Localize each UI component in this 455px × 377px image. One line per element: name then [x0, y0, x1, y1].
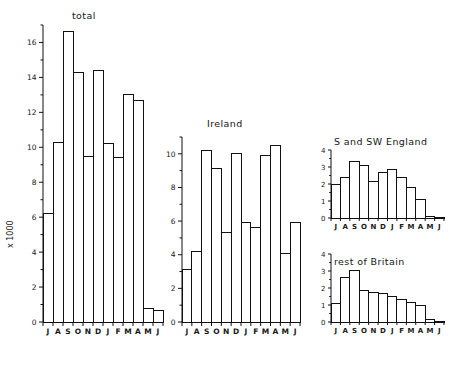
x-tick-label: O — [213, 327, 219, 336]
plot-area-s-and-sw-england: 01234JASONDJFMAMJ — [312, 0, 455, 250]
x-tick-label: S — [204, 327, 209, 336]
x-tick-label: A — [418, 327, 424, 335]
bar — [340, 278, 349, 322]
bar — [271, 145, 281, 322]
y-tick-label: 2 — [32, 283, 37, 292]
x-tick-label: O — [361, 223, 367, 231]
x-tick-label: O — [361, 327, 367, 335]
x-tick-label: D — [380, 223, 386, 231]
chart-panel-ireland: Ireland 0246810JASONDJFMAMJ — [160, 0, 310, 377]
x-tick-label: J — [156, 327, 160, 336]
bar — [290, 223, 300, 322]
bar — [369, 292, 378, 322]
x-tick-label: F — [253, 327, 258, 336]
x-tick-label: O — [75, 327, 81, 336]
x-tick-label: M — [408, 223, 415, 231]
y-tick-label: 0 — [32, 318, 37, 327]
x-tick-label: F — [115, 327, 120, 336]
y-tick-label: 0 — [321, 215, 325, 223]
bar — [143, 309, 153, 322]
bar — [359, 165, 368, 218]
x-tick-label: S — [352, 327, 357, 335]
y-tick-label: 16 — [27, 38, 37, 47]
bar — [397, 177, 406, 218]
x-tick-label: J — [106, 327, 110, 336]
y-tick-label: 2 — [171, 284, 176, 293]
bar — [182, 270, 192, 322]
bar — [43, 214, 53, 322]
bar — [331, 303, 340, 322]
x-tick-label: N — [85, 327, 91, 336]
bar — [378, 294, 387, 322]
y-tick-label: 4 — [171, 250, 176, 259]
bar — [350, 270, 359, 322]
bar — [221, 233, 231, 322]
y-tick-label: 3 — [321, 164, 325, 172]
x-tick-label: J — [437, 223, 441, 231]
x-tick-label: M — [144, 327, 151, 336]
x-tick-label: J — [390, 327, 394, 335]
x-tick-label: M — [426, 327, 433, 335]
bar — [397, 300, 406, 322]
y-tick-label: 4 — [32, 248, 37, 257]
x-tick-label: A — [418, 223, 424, 231]
bar — [331, 184, 340, 218]
bar — [416, 306, 425, 322]
bar — [212, 169, 222, 322]
y-tick-label: 4 — [321, 147, 326, 155]
bar — [369, 181, 378, 218]
x-tick-label: M — [124, 327, 131, 336]
x-tick-label: F — [399, 327, 404, 335]
plot-area-rest-of-britain: 01234JASONDJFMAMJ — [312, 250, 455, 377]
x-tick-label: M — [282, 327, 289, 336]
x-tick-label: D — [233, 327, 239, 336]
x-tick-label: J — [333, 327, 337, 335]
bar — [83, 156, 93, 322]
bar — [231, 154, 241, 322]
bar — [340, 177, 349, 218]
bar — [133, 100, 143, 322]
x-tick-label: A — [273, 327, 279, 336]
x-tick-label: M — [426, 223, 433, 231]
x-tick-label: N — [223, 327, 229, 336]
x-tick-label: J — [437, 327, 441, 335]
y-tick-label: 10 — [27, 143, 37, 152]
x-tick-label: D — [380, 327, 386, 335]
y-tick-label: 6 — [32, 213, 37, 222]
x-tick-label: N — [370, 223, 376, 231]
y-tick-label: 6 — [171, 217, 176, 226]
bar — [280, 253, 290, 322]
bar — [388, 170, 397, 218]
figure-panel-group: total x 1000 0246810121416JASONDJFMAMJ I… — [0, 0, 455, 377]
bar — [350, 162, 359, 218]
bar — [53, 142, 63, 322]
bar — [435, 217, 444, 218]
y-tick-label: 2 — [321, 285, 325, 293]
bar — [388, 297, 397, 323]
y-tick-label: 10 — [166, 150, 176, 159]
bar — [73, 72, 83, 322]
y-tick-label: 8 — [32, 178, 37, 187]
y-tick-label: 1 — [321, 198, 325, 206]
bar — [261, 156, 271, 323]
x-tick-label: M — [262, 327, 269, 336]
x-tick-label: J — [185, 327, 189, 336]
x-tick-label: A — [135, 327, 141, 336]
x-tick-label: S — [352, 223, 357, 231]
bar — [416, 199, 425, 218]
plot-area-total: 0246810121416JASONDJFMAMJ — [0, 0, 175, 377]
x-tick-label: A — [342, 223, 348, 231]
bar — [103, 144, 113, 322]
x-tick-label: J — [333, 223, 337, 231]
y-tick-label: 1 — [321, 302, 325, 310]
y-tick-label: 3 — [321, 268, 325, 276]
chart-panel-total: total x 1000 0246810121416JASONDJFMAMJ — [0, 0, 175, 377]
bar — [378, 172, 387, 218]
x-tick-label: S — [65, 327, 70, 336]
bar — [192, 251, 202, 322]
chart-panel-s-and-sw-england: S and SW England 01234JASONDJFMAMJ — [312, 0, 455, 250]
x-tick-label: J — [46, 327, 50, 336]
bar — [63, 32, 73, 322]
y-tick-label: 2 — [321, 181, 325, 189]
x-tick-label: A — [55, 327, 61, 336]
